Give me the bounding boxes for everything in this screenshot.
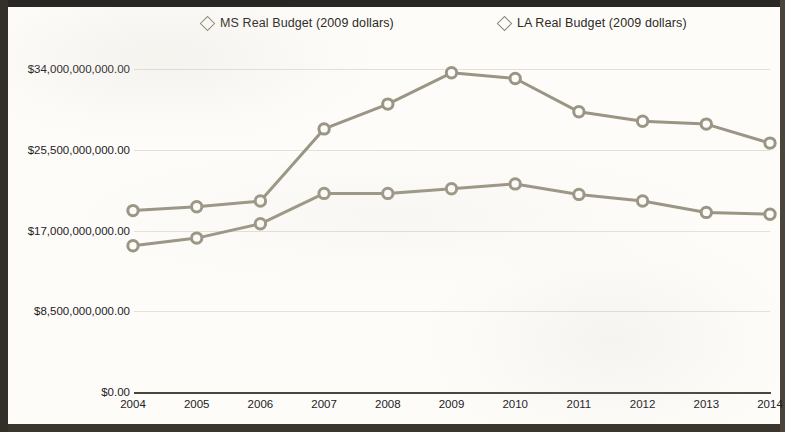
- data-point-marker: [128, 241, 138, 251]
- data-point-marker: [510, 73, 520, 83]
- data-point-marker: [446, 184, 456, 194]
- data-point-marker: [765, 138, 775, 148]
- data-point-marker: [637, 116, 647, 126]
- data-point-marker: [319, 124, 329, 134]
- data-point-marker: [701, 119, 711, 129]
- data-point-marker: [765, 209, 775, 219]
- data-point-marker: [128, 205, 138, 215]
- data-point-marker: [510, 179, 520, 189]
- chart-plot-area: [0, 0, 785, 432]
- data-point-marker: [319, 188, 329, 198]
- data-point-marker: [574, 107, 584, 117]
- data-point-marker: [255, 196, 265, 206]
- data-point-marker: [383, 99, 393, 109]
- data-point-marker: [701, 207, 711, 217]
- data-point-marker: [383, 188, 393, 198]
- data-point-marker: [574, 189, 584, 199]
- data-point-marker: [192, 202, 202, 212]
- data-point-marker: [637, 196, 647, 206]
- data-point-marker: [446, 68, 456, 78]
- data-point-marker: [255, 219, 265, 229]
- series-la: [128, 179, 775, 251]
- chart-screenshot: MS Real Budget (2009 dollars) LA Real Bu…: [0, 0, 785, 432]
- data-point-marker: [192, 233, 202, 243]
